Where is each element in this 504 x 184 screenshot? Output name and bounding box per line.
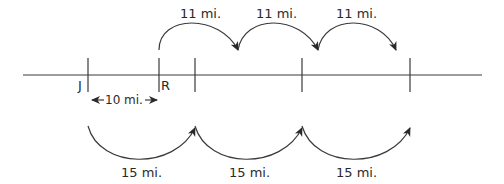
top-label-2: 11 mi.: [256, 6, 297, 21]
number-line-diagram: J R 10 mi. 11 mi. 11 mi. 11 mi. 15 mi. 1…: [0, 0, 504, 184]
top-arc-3: [318, 23, 396, 50]
bottom-label-2: 15 mi.: [229, 165, 270, 180]
bottom-arc-3: [302, 126, 410, 159]
top-arc-2: [238, 23, 318, 50]
label-j: J: [77, 78, 82, 93]
top-label-1: 11 mi.: [180, 6, 221, 21]
bottom-label-1: 15 mi.: [121, 165, 162, 180]
bottom-arc-1: [88, 126, 195, 159]
gap-label: 10 mi.: [105, 93, 143, 107]
bottom-arc-2: [195, 126, 302, 159]
top-label-3: 11 mi.: [336, 6, 377, 21]
top-arc-1: [159, 23, 238, 50]
label-r: R: [161, 78, 170, 93]
bottom-label-3: 15 mi.: [336, 165, 377, 180]
